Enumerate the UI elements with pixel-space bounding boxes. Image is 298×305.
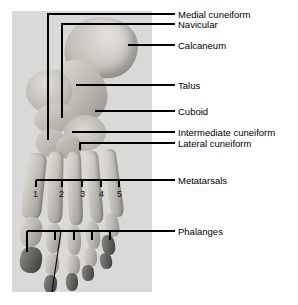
leader-medial-cuneiform	[48, 14, 175, 140]
anatomical-figure: Medial cuneiform Navicular Calcaneum Tal…	[0, 0, 298, 305]
label-cuboid: Cuboid	[178, 106, 208, 117]
label-talus: Talus	[178, 80, 200, 91]
leader-phalanges-diagonal	[52, 231, 61, 292]
metatarsal-number-2: 2	[59, 190, 64, 199]
leader-line-overlay	[0, 0, 298, 305]
metatarsal-number-5: 5	[117, 190, 122, 199]
leader-lateral-cuneiform	[80, 143, 175, 150]
label-lateral-cuneiform: Lateral cuneiform	[178, 138, 251, 149]
label-calcaneum: Calcaneum	[178, 40, 226, 51]
metatarsal-number-4: 4	[99, 190, 104, 199]
leader-navicular	[62, 24, 175, 118]
label-intermediate-cuneiform: Intermediate cuneiform	[178, 127, 275, 138]
label-metatarsals: Metatarsals	[178, 175, 227, 186]
metatarsal-number-1: 1	[33, 190, 38, 199]
label-phalanges: Phalanges	[178, 226, 223, 237]
metatarsal-number-3: 3	[80, 190, 85, 199]
label-navicular: Navicular	[178, 19, 218, 30]
